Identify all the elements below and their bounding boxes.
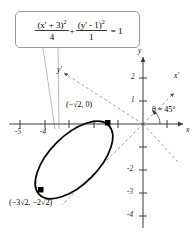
x-axis-label: x — [186, 126, 189, 134]
fraction-1-numerator: (x' + 3)2 — [35, 19, 68, 31]
x-tick-label--5: -5 — [15, 129, 21, 136]
y-tick-label-2: 2 — [131, 74, 135, 81]
equals-one: = 1 — [111, 26, 123, 36]
y-tick-label-1: 1 — [131, 97, 135, 104]
fraction-1-denominator: 4 — [35, 31, 68, 42]
point-label-lower-left: (−3√2, −2√2) — [9, 199, 52, 207]
y-tick-label--3: -3 — [127, 189, 133, 196]
point-upper-right — [105, 120, 111, 126]
y-prime-axis-neg — [143, 124, 178, 162]
point-lower-left — [38, 187, 44, 193]
point-label-upper-right: (−√2, 0) — [66, 101, 92, 109]
y-tick-label--4: -4 — [127, 212, 133, 219]
y-axis-label: y — [138, 47, 141, 55]
x-tick-label--4: -4 — [40, 129, 46, 136]
x-prime-axis-label: x' — [174, 72, 179, 80]
rotated-axes-dashed — [62, 73, 178, 205]
marked-points — [38, 120, 111, 193]
y-tick-label--2: -2 — [127, 166, 133, 173]
fraction-2-numerator: (y' - 1)2 — [76, 19, 107, 31]
numerator-2-exponent: 2 — [102, 19, 105, 25]
equation-content: (x' + 3)2 4 + (y' - 1)2 1 = 1 — [16, 12, 141, 49]
fraction-2-denominator: 1 — [76, 31, 107, 42]
fraction-2: (y' - 1)2 1 — [76, 19, 107, 42]
axis-ticks — [20, 78, 167, 216]
theta-angle-label: θ = 45° — [152, 106, 176, 114]
numerator-2-text: (y' - 1) — [78, 20, 102, 30]
plus-sign: + — [70, 26, 75, 36]
numerator-1-exponent: 2 — [64, 19, 67, 25]
callout-leader-lines — [43, 48, 59, 129]
numerator-1-text: (x' + 3) — [37, 20, 63, 30]
equation-callout-box: (x' + 3)2 4 + (y' - 1)2 1 = 1 — [15, 11, 140, 48]
y-prime-axis-label: y' — [57, 66, 62, 74]
fraction-1: (x' + 3)2 4 — [35, 19, 68, 42]
